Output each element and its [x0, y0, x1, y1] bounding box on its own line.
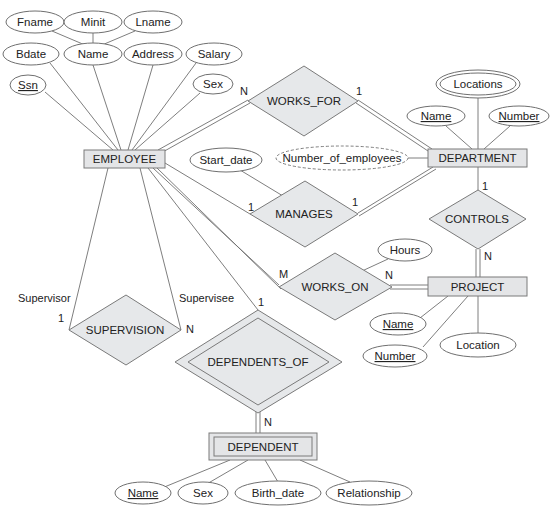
er-diagram-canvas: EMPLOYEE DEPARTMENT PROJECT DEPENDENT WO… — [0, 0, 554, 515]
entity-project[interactable]: PROJECT — [428, 277, 527, 296]
entity-employee[interactable]: EMPLOYEE — [84, 150, 165, 168]
entity-employee-label: EMPLOYEE — [93, 153, 157, 165]
relationship-dependents-of[interactable]: DEPENDENTS_OF — [175, 310, 342, 413]
attribute-salary[interactable]: Salary — [186, 43, 242, 65]
attribute-dept-number[interactable]: Number — [489, 106, 549, 126]
attribute-address[interactable]: Address — [124, 43, 182, 65]
attribute-dept-name[interactable]: Name — [407, 106, 465, 126]
attribute-lname[interactable]: Lname — [124, 11, 182, 33]
attribute-birth-date[interactable]: Birth_date — [235, 481, 321, 505]
attribute-address-label: Address — [132, 48, 174, 60]
attribute-hours[interactable]: Hours — [378, 239, 432, 261]
entity-project-label: PROJECT — [451, 281, 505, 293]
attribute-dept-number-label: Number — [499, 110, 540, 122]
attribute-locations-label: Locations — [453, 78, 502, 90]
relationship-supervision[interactable]: SUPERVISION — [69, 295, 181, 365]
role-supervisor: Supervisor — [18, 292, 71, 304]
attribute-salary-label: Salary — [198, 48, 231, 60]
attribute-dependent-name-label: Name — [128, 487, 159, 499]
relationship-dependents-of-label: DEPENDENTS_OF — [208, 356, 309, 368]
relationship-works-for[interactable]: WORKS_FOR — [248, 66, 358, 136]
attribute-name-label: Name — [78, 48, 109, 60]
entity-department[interactable]: DEPARTMENT — [428, 149, 527, 167]
attribute-bdate-label: Bdate — [16, 48, 46, 60]
attribute-number-of-employees[interactable]: Number_of_employees — [276, 146, 408, 170]
attribute-dependent-sex-label: Sex — [193, 487, 213, 499]
card-controls-department: 1 — [482, 180, 488, 192]
card-works-on-project: N — [385, 269, 393, 281]
attribute-project-name[interactable]: Name — [370, 313, 426, 335]
attribute-name[interactable]: Name — [64, 43, 122, 65]
attribute-sex-label: Sex — [203, 78, 223, 90]
entity-dependent[interactable]: DEPENDENT — [209, 433, 317, 460]
attribute-minit[interactable]: Minit — [64, 11, 122, 33]
relationship-works-for-label: WORKS_FOR — [267, 95, 341, 107]
attribute-number-of-employees-label: Number_of_employees — [283, 152, 402, 164]
relationship-controls-label: CONTROLS — [445, 213, 509, 225]
card-works-on-employee: M — [279, 268, 288, 280]
attribute-sex[interactable]: Sex — [193, 74, 233, 94]
attribute-birth-date-label: Birth_date — [252, 487, 304, 499]
relationship-controls[interactable]: CONTROLS — [429, 190, 526, 249]
attribute-relationship[interactable]: Relationship — [326, 481, 412, 505]
attribute-minit-label: Minit — [81, 16, 106, 28]
attribute-fname[interactable]: Fname — [6, 11, 64, 33]
attribute-relationship-label: Relationship — [337, 487, 400, 499]
card-supervision-supervisor: 1 — [58, 312, 64, 324]
attribute-ssn-label: Ssn — [18, 79, 38, 91]
attribute-locations[interactable]: Locations — [436, 70, 520, 98]
attribute-dependent-sex[interactable]: Sex — [178, 482, 228, 504]
attribute-hours-label: Hours — [390, 244, 421, 256]
relationship-works-on[interactable]: WORKS_ON — [279, 253, 392, 320]
card-supervision-supervisee: N — [186, 323, 194, 335]
relationship-works-on-label: WORKS_ON — [301, 281, 368, 293]
card-dependents-of-employee: 1 — [258, 296, 264, 308]
attribute-ssn[interactable]: Ssn — [10, 75, 46, 95]
card-controls-project: N — [484, 250, 492, 262]
card-works-for-department: 1 — [356, 85, 362, 97]
card-dependents-of-dependent: N — [264, 416, 272, 428]
entity-dependent-label: DEPENDENT — [228, 441, 299, 453]
attribute-lname-label: Lname — [135, 16, 170, 28]
relationship-manages-label: MANAGES — [275, 208, 333, 220]
attribute-dept-name-label: Name — [421, 110, 452, 122]
attribute-fname-label: Fname — [17, 16, 53, 28]
attribute-project-location-label: Location — [456, 339, 499, 351]
entity-department-label: DEPARTMENT — [438, 152, 516, 164]
card-manages-department: 1 — [352, 196, 358, 208]
card-manages-employee: 1 — [248, 201, 254, 213]
er-diagram: EMPLOYEE DEPARTMENT PROJECT DEPENDENT WO… — [0, 0, 554, 515]
card-works-for-employee: N — [240, 85, 248, 97]
attribute-project-number-label: Number — [375, 350, 416, 362]
attribute-dependent-name[interactable]: Name — [115, 482, 171, 504]
attribute-start-date-label: Start_date — [199, 154, 252, 166]
attribute-project-name-label: Name — [383, 318, 414, 330]
attribute-bdate[interactable]: Bdate — [3, 43, 59, 65]
role-supervisee: Supervisee — [179, 292, 234, 304]
attribute-start-date[interactable]: Start_date — [190, 148, 262, 172]
relationship-supervision-label: SUPERVISION — [86, 324, 164, 336]
attribute-project-number[interactable]: Number — [363, 345, 427, 367]
attribute-project-location[interactable]: Location — [440, 333, 516, 357]
relationship-manages[interactable]: MANAGES — [250, 181, 358, 247]
